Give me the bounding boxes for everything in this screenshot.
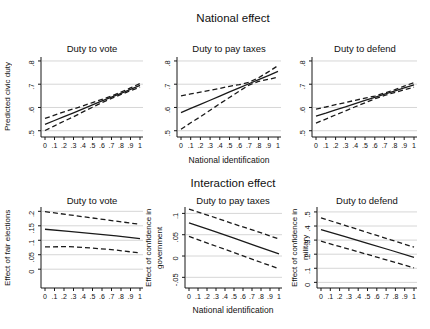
svg-text:.4: .4 (80, 142, 86, 149)
svg-text:.5: .5 (163, 130, 172, 136)
svg-text:0: 0 (43, 293, 47, 300)
svg-text:-.05: -.05 (171, 273, 180, 286)
svg-text:.7: .7 (109, 142, 115, 149)
svg-text:.1: .1 (52, 142, 58, 149)
svg-text:.9: .9 (267, 293, 273, 300)
svg-text:.7: .7 (383, 293, 389, 300)
svg-text:.1: .1 (171, 213, 180, 219)
svg-text:0: 0 (171, 256, 180, 260)
svg-text:1: 1 (276, 142, 280, 149)
svg-text:.9: .9 (402, 293, 408, 300)
svg-text:.3: .3 (213, 293, 219, 300)
svg-text:.6: .6 (374, 293, 380, 300)
svg-text:.6: .6 (99, 142, 105, 149)
svg-text:.7: .7 (382, 142, 388, 149)
svg-text:.4: .4 (222, 293, 228, 300)
svg-text:.05: .05 (27, 252, 36, 262)
svg-text:.3: .3 (71, 293, 77, 300)
svg-text:.1: .1 (327, 293, 333, 300)
svg-text:.5: .5 (365, 293, 371, 300)
svg-text:.7: .7 (246, 142, 252, 149)
svg-text:.8: .8 (27, 60, 36, 66)
svg-text:.4: .4 (217, 142, 223, 149)
svg-text:.4: .4 (80, 293, 86, 300)
svg-text:.8: .8 (258, 293, 264, 300)
series-lower-ci (45, 247, 140, 253)
svg-text:.5: .5 (303, 211, 312, 217)
svg-text:.6: .6 (298, 107, 307, 113)
plot-interaction-duty-to-pay-taxes: -.050.05.10.1.2.3.4.5.6.7.8.91 (169, 202, 287, 304)
svg-text:.2: .2 (61, 293, 67, 300)
svg-text:.5: .5 (362, 142, 368, 149)
svg-text:1: 1 (277, 293, 281, 300)
x-axis-label-bottom: National identification (173, 305, 293, 315)
svg-text:.2: .2 (333, 142, 339, 149)
svg-text:.2: .2 (197, 142, 203, 149)
figure-canvas: National effect Interaction effect Duty … (0, 0, 430, 329)
svg-text:.8: .8 (392, 293, 398, 300)
svg-text:.1: .1 (27, 240, 36, 246)
plot-interaction-duty-to-vote: 0.05.1.15.20.1.2.3.4.5.6.7.8.91 (25, 202, 148, 304)
svg-text:.7: .7 (27, 84, 36, 90)
svg-text:.4: .4 (303, 225, 312, 231)
y-axis-label-predicted-civic-duty: Predicted civic duty (2, 57, 13, 137)
svg-text:.7: .7 (249, 293, 255, 300)
svg-text:.1: .1 (195, 293, 201, 300)
svg-text:0: 0 (303, 283, 312, 287)
svg-text:1: 1 (412, 142, 416, 149)
svg-text:1: 1 (138, 293, 142, 300)
svg-text:.15: .15 (27, 223, 36, 233)
svg-text:.8: .8 (391, 142, 397, 149)
svg-text:.8: .8 (118, 293, 124, 300)
svg-text:.1: .1 (303, 268, 312, 274)
svg-text:.7: .7 (109, 293, 115, 300)
svg-text:0: 0 (27, 270, 36, 274)
svg-text:0: 0 (179, 142, 183, 149)
svg-text:.9: .9 (401, 142, 407, 149)
svg-text:.1: .1 (188, 142, 194, 149)
series-point-estimate (45, 85, 140, 124)
svg-text:.6: .6 (27, 107, 36, 113)
svg-text:.3: .3 (346, 293, 352, 300)
svg-text:0: 0 (319, 293, 323, 300)
y-axis-label-line-2: government (154, 207, 165, 288)
series-upper-ci (316, 83, 414, 110)
svg-text:.4: .4 (352, 142, 358, 149)
svg-text:.9: .9 (128, 142, 134, 149)
svg-text:.05: .05 (171, 232, 180, 242)
series-point-estimate (181, 71, 278, 112)
svg-text:1: 1 (138, 142, 142, 149)
svg-text:.4: .4 (355, 293, 361, 300)
svg-text:.1: .1 (52, 293, 58, 300)
svg-text:.3: .3 (71, 142, 77, 149)
svg-text:.1: .1 (323, 142, 329, 149)
svg-text:.2: .2 (204, 293, 210, 300)
series-lower-ci (45, 87, 140, 130)
svg-text:.3: .3 (207, 142, 213, 149)
series-lower-ci (189, 236, 279, 268)
svg-text:.6: .6 (236, 142, 242, 149)
svg-text:.6: .6 (163, 107, 172, 113)
series-point-estimate (45, 229, 140, 238)
svg-text:.3: .3 (303, 239, 312, 245)
svg-text:.6: .6 (99, 293, 105, 300)
svg-text:.6: .6 (240, 293, 246, 300)
plot-interaction-duty-to-defend: 0.1.2.3.4.50.1.2.3.4.5.6.7.8.91 (301, 202, 422, 304)
svg-text:.6: .6 (372, 142, 378, 149)
svg-text:.8: .8 (163, 60, 172, 66)
svg-text:.5: .5 (90, 293, 96, 300)
series-lower-ci (316, 87, 414, 123)
svg-text:.2: .2 (61, 142, 67, 149)
svg-text:.9: .9 (128, 293, 134, 300)
svg-text:.2: .2 (303, 254, 312, 260)
x-axis-label-top: National identification (169, 155, 289, 165)
svg-text:.7: .7 (298, 84, 307, 90)
svg-text:.2: .2 (337, 293, 343, 300)
svg-text:.5: .5 (90, 142, 96, 149)
series-lower-ci (181, 77, 278, 129)
plot-national-duty-to-defend: .5.6.7.80.1.2.3.4.5.6.7.8.91 (296, 52, 422, 153)
svg-text:.5: .5 (231, 293, 237, 300)
svg-text:0: 0 (187, 293, 191, 300)
svg-text:.8: .8 (256, 142, 262, 149)
series-upper-ci (45, 84, 140, 119)
